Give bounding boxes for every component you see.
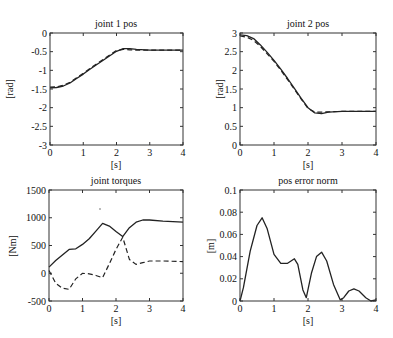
y-tick-label: 0.08 [220,207,238,218]
y-axis-label: [rad] [214,79,225,98]
y-tick-label: 0.02 [220,273,238,284]
figure: joint 1 pos [s] [rad] 012340-0.5-1-1.5-2… [0,0,393,338]
subplot-joint-1-pos: joint 1 pos [s] [rad] 012340-0.5-1-1.5-2… [4,18,186,170]
y-tick-label: 0 [42,28,47,39]
y-tick-label: 2 [232,65,237,76]
y-axis-label: [Nm] [7,235,18,257]
plot-lines [240,35,376,114]
y-tick-label: 1000 [26,212,46,223]
y-tick-label: 0.5 [225,121,238,132]
y-tick-label: -2.5 [31,121,47,132]
y-tick-label: -1.5 [31,84,47,95]
series-dashed-line [50,49,183,87]
series-solid-line [49,220,183,267]
x-tick-label: 3 [147,147,152,158]
y-tick-label: 2.5 [225,46,238,57]
x-tick-label: 3 [340,147,345,158]
x-axis-label: [s] [303,315,314,326]
y-tick-label: 1500 [26,185,46,196]
x-tick-label: 4 [374,303,379,314]
y-tick-label: 0.06 [220,229,238,240]
y-tick-label: -2 [39,102,47,113]
y-tick-label: 1.5 [225,84,238,95]
series-dashed-line [240,36,376,112]
subplot-title: joint 1 pos [94,18,137,29]
x-tick-label: 1 [272,147,277,158]
x-tick-label: 0 [47,303,52,314]
y-tick-label: 0.1 [225,185,238,196]
series-dashed-line [49,237,183,289]
subplot-title: joint torques [90,175,141,186]
x-tick-label: 2 [306,147,311,158]
x-axis-label: [s] [111,315,122,326]
series-solid-line [240,218,376,301]
axes-frame [49,190,183,301]
y-tick-label: 0 [232,296,237,307]
x-axis-label: [s] [303,159,314,170]
x-tick-label: 2 [114,147,119,158]
x-tick-label: 0 [238,303,243,314]
x-tick-label: 0 [238,147,243,158]
x-tick-label: 1 [272,303,277,314]
y-tick-label: -0.5 [31,46,47,57]
subplot-joint-torques: joint torques [s] [Nm] 01234150010005000… [7,175,186,326]
y-axis-label: [m] [205,239,216,253]
plot-lines [50,49,183,88]
subplot-pos-error-norm: pos error norm [s] [m] 012340.10.080.060… [205,175,379,326]
x-tick-label: 4 [181,147,186,158]
x-axis-label: [s] [111,159,122,170]
x-tick-label: 4 [181,303,186,314]
x-tick-label: 3 [340,303,345,314]
y-tick-label: 0.04 [220,251,238,262]
series-solid-line [240,35,376,114]
y-tick-label: -500 [28,296,46,307]
x-tick-label: 1 [81,147,86,158]
x-tick-label: 4 [374,147,379,158]
y-tick-label: -3 [39,140,47,151]
y-tick-label: 0 [232,140,237,151]
subplot-title: pos error norm [278,175,338,186]
x-tick-label: 2 [114,303,119,314]
x-tick-label: 2 [306,303,311,314]
axis-ticks: 012340-0.5-1-1.5-2-2.5-3 [31,28,185,159]
axis-ticks: 012340.10.080.060.040.020 [220,185,379,315]
axis-ticks: 0123432.521.510.50 [225,28,379,159]
y-axis-label: [rad] [4,79,15,98]
axes-frame [240,190,376,301]
x-tick-label: 0 [48,147,53,158]
plot-lines [240,218,376,301]
y-tick-label: -1 [39,65,47,76]
x-tick-label: 3 [147,303,152,314]
y-tick-label: 3 [232,28,237,39]
plot-lines [49,220,183,289]
axes-frame [240,33,376,145]
y-tick-label: 0 [41,268,46,279]
stray-dot [99,208,101,210]
y-tick-label: 500 [31,240,46,251]
subplot-title: joint 2 pos [286,18,329,29]
axis-ticks: 01234150010005000-500 [26,185,186,315]
x-tick-label: 1 [80,303,85,314]
y-tick-label: 1 [232,102,237,113]
subplot-joint-2-pos: joint 2 pos [s] [rad] 0123432.521.510.50 [214,18,379,170]
